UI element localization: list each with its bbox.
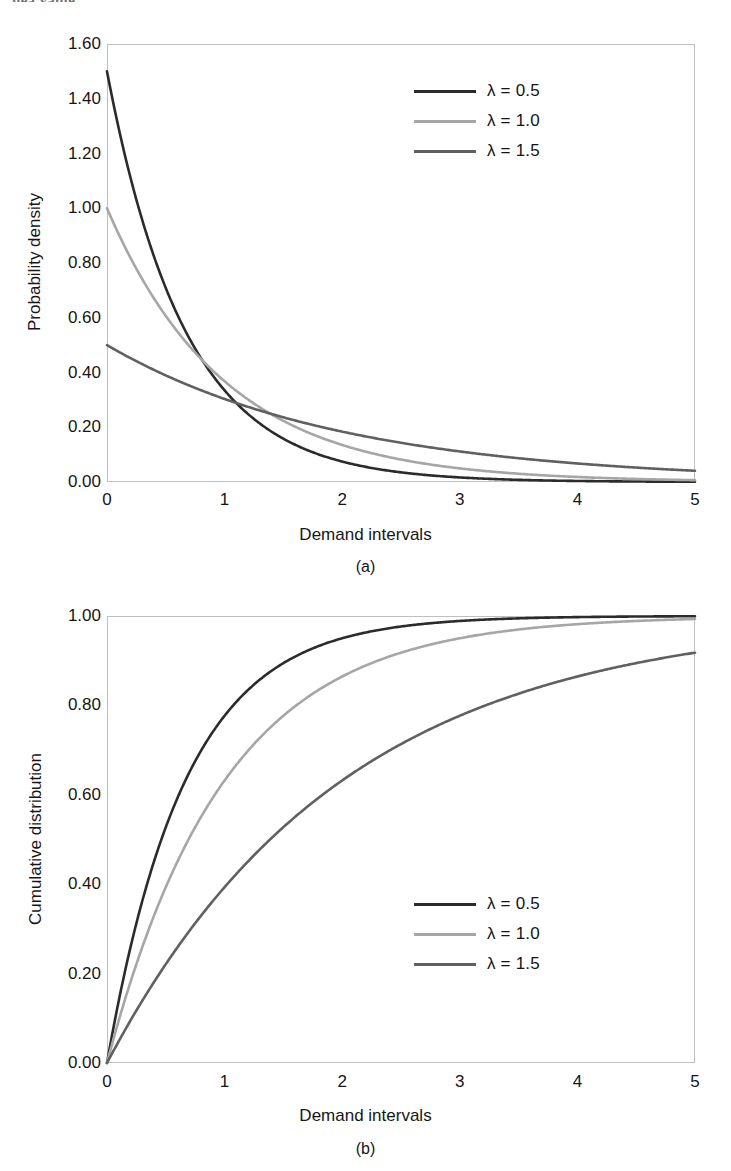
y-tick-label: 0.00 — [45, 472, 101, 492]
x-tick-label: 4 — [573, 1072, 582, 1092]
y-tick-label: 0.80 — [45, 695, 101, 715]
legend-line-swatch — [414, 150, 476, 153]
x-tick-label: 4 — [573, 490, 582, 510]
y-tick-label: 0.20 — [45, 417, 101, 437]
legend-item: λ = 0.5 — [414, 889, 540, 919]
x-axis-title-a: Demand intervals — [0, 525, 731, 545]
figure-a: Probability density 0.000.200.400.600.80… — [0, 20, 731, 580]
legend-label: λ = 1.5 — [487, 141, 540, 161]
y-tick-label: 1.20 — [45, 144, 101, 164]
x-tick-label: 0 — [102, 490, 111, 510]
figure-page: nea value. Probability density 0.000.200… — [0, 0, 731, 1171]
legend-item: λ = 1.0 — [414, 106, 540, 136]
plot-frame — [108, 617, 695, 1063]
y-tick-label: 0.40 — [45, 874, 101, 894]
legend-label: λ = 0.5 — [487, 81, 540, 101]
legend-label: λ = 1.0 — [487, 111, 540, 131]
y-tick-label: 0.60 — [45, 785, 101, 805]
figure-b: Cumulative distribution 0.000.200.400.60… — [0, 592, 731, 1167]
x-tick-label: 3 — [455, 1072, 464, 1092]
y-axis-ticks-a: 0.000.200.400.600.801.001.201.401.60 — [43, 44, 101, 482]
y-tick-label: 0.40 — [45, 363, 101, 383]
legend-line-swatch — [414, 120, 476, 123]
y-axis-ticks-b: 0.000.200.400.600.801.00 — [43, 616, 101, 1063]
x-axis-title-b: Demand intervals — [0, 1106, 731, 1126]
legend-item: λ = 1.5 — [414, 949, 540, 979]
y-axis-title-a: Probability density — [25, 43, 45, 481]
legend-a: λ = 0.5λ = 1.0λ = 1.5 — [414, 76, 540, 166]
legend-item: λ = 1.0 — [414, 919, 540, 949]
y-tick-label: 1.00 — [45, 198, 101, 218]
x-tick-label: 1 — [220, 1072, 229, 1092]
x-tick-label: 5 — [690, 490, 699, 510]
x-tick-label: 0 — [102, 1072, 111, 1092]
legend-item: λ = 0.5 — [414, 76, 540, 106]
y-tick-label: 0.20 — [45, 964, 101, 984]
legend-line-swatch — [414, 933, 476, 936]
figure-caption-a: (a) — [0, 558, 731, 576]
y-tick-label: 1.60 — [45, 34, 101, 54]
x-tick-label: 1 — [220, 490, 229, 510]
plot-area-b — [107, 616, 695, 1063]
legend-line-swatch — [414, 963, 476, 966]
x-tick-label: 3 — [455, 490, 464, 510]
x-tick-label: 5 — [690, 1072, 699, 1092]
y-tick-label: 1.00 — [45, 606, 101, 626]
legend-label: λ = 1.5 — [487, 954, 540, 974]
legend-line-swatch — [414, 903, 476, 906]
y-tick-label: 0.80 — [45, 253, 101, 273]
legend-b: λ = 0.5λ = 1.0λ = 1.5 — [414, 889, 540, 979]
y-tick-label: 0.00 — [45, 1053, 101, 1073]
y-axis-title-b: Cumulative distribution — [25, 615, 45, 1062]
x-tick-label: 2 — [337, 490, 346, 510]
y-tick-label: 1.40 — [45, 89, 101, 109]
y-tick-label: 0.60 — [45, 308, 101, 328]
legend-label: λ = 0.5 — [487, 894, 540, 914]
legend-item: λ = 1.5 — [414, 136, 540, 166]
legend-label: λ = 1.0 — [487, 924, 540, 944]
legend-line-swatch — [414, 90, 476, 93]
plot-frame — [108, 45, 695, 482]
figure-caption-b: (b) — [0, 1140, 731, 1158]
cut-off-header-text: nea value. — [12, 0, 79, 2]
x-tick-label: 2 — [337, 1072, 346, 1092]
plot-area-a — [107, 44, 695, 482]
